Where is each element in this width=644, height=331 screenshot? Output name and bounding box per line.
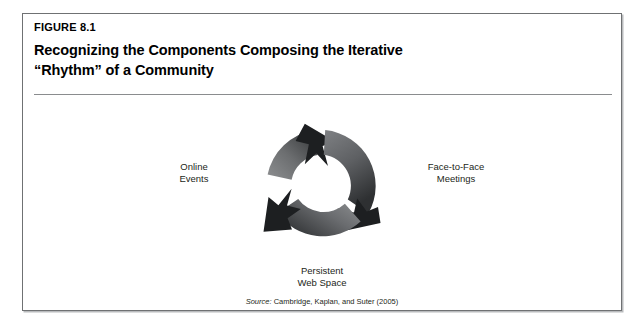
source-note: Source: Cambridge, Kaplan, and Suter (20…: [23, 297, 621, 307]
label-persistent-web-space: Persistent Web Space: [23, 265, 621, 289]
cycle-ring-graphic: [242, 106, 402, 266]
title-divider: [34, 94, 612, 95]
figure-number: FIGURE 8.1: [34, 20, 612, 34]
segment-persistent-web-space: [264, 189, 361, 236]
label-face-to-face-meetings: Face-to-Face Meetings: [411, 161, 501, 185]
figure-header: FIGURE 8.1 Recognizing the Components Co…: [34, 20, 612, 80]
figure-page: FIGURE 8.1 Recognizing the Components Co…: [0, 0, 644, 331]
label-online-events: Online Events: [159, 161, 229, 185]
figure-frame: FIGURE 8.1 Recognizing the Components Co…: [22, 13, 622, 311]
source-label: Source:: [246, 297, 272, 306]
source-citation: Cambridge, Kaplan, and Suter (2005): [272, 297, 399, 306]
cycle-diagram: Online Events Face-to-Face Meetings Pers…: [23, 98, 621, 310]
figure-title: Recognizing the Components Composing the…: [34, 40, 612, 80]
